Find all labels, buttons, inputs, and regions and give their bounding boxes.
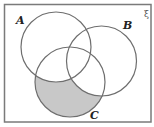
venn-diagram: A B C ξ bbox=[0, 0, 154, 127]
set-c-label: C bbox=[90, 109, 99, 122]
set-b-label: B bbox=[122, 19, 132, 32]
universal-set-symbol: ξ bbox=[144, 9, 149, 19]
set-a-label: A bbox=[15, 14, 25, 27]
